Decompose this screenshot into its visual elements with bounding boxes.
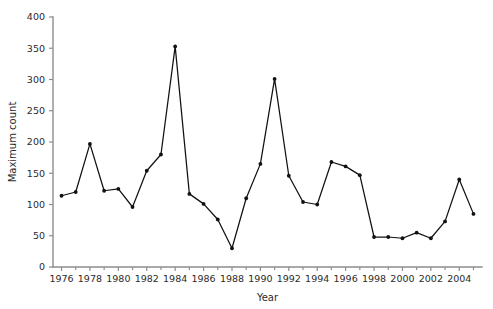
data-point [202, 202, 206, 206]
data-point [358, 173, 362, 177]
x-tick-label: 2004 [447, 273, 471, 284]
line-chart: 050100150200250300350400 197619781980198… [0, 0, 493, 309]
data-point [273, 77, 277, 81]
data-point [187, 192, 191, 196]
data-point [131, 205, 135, 209]
data-point [386, 235, 390, 239]
data-point [244, 196, 248, 200]
y-tick-label: 150 [27, 168, 45, 179]
y-tick-label: 0 [39, 261, 45, 272]
y-axis-ticks: 050100150200250300350400 [27, 11, 53, 272]
data-point [216, 218, 220, 222]
data-point [472, 212, 476, 216]
y-axis-title: Maximum count [7, 102, 18, 183]
x-tick-label: 1990 [248, 273, 272, 284]
data-point [457, 178, 461, 182]
data-point [145, 169, 149, 173]
data-point [429, 236, 433, 240]
y-tick-label: 100 [27, 199, 45, 210]
y-tick-label: 400 [27, 11, 45, 22]
x-tick-label: 1976 [49, 273, 73, 284]
x-tick-label: 2000 [390, 273, 414, 284]
y-tick-label: 300 [27, 74, 45, 85]
data-point [259, 162, 263, 166]
x-axis-title: Year [256, 292, 279, 303]
x-tick-label: 1996 [334, 273, 358, 284]
data-point [344, 164, 348, 168]
data-point [173, 44, 177, 48]
x-tick-label: 2002 [419, 273, 443, 284]
y-tick-label: 350 [27, 43, 45, 54]
data-point [116, 187, 120, 191]
x-tick-label: 1980 [106, 273, 130, 284]
chart-figure: 050100150200250300350400 197619781980198… [0, 0, 493, 309]
x-axis-ticks: 1976197819801982198419861988199019921994… [49, 267, 473, 284]
x-tick-label: 1994 [305, 273, 329, 284]
data-point [159, 153, 163, 157]
y-tick-label: 250 [27, 105, 45, 116]
x-tick-label: 1988 [220, 273, 244, 284]
x-tick-label: 1998 [362, 273, 386, 284]
data-point [415, 231, 419, 235]
data-point [74, 190, 78, 194]
data-point [60, 194, 64, 198]
data-point [330, 160, 334, 164]
y-tick-label: 50 [33, 230, 45, 241]
x-tick-label: 1992 [277, 273, 301, 284]
data-series-markers [60, 44, 476, 250]
data-point [102, 189, 106, 193]
data-point [287, 174, 291, 178]
data-point [401, 236, 405, 240]
x-tick-label: 1986 [191, 273, 215, 284]
y-tick-label: 200 [27, 136, 45, 147]
data-point [88, 142, 92, 146]
x-tick-label: 1982 [135, 273, 159, 284]
data-series-line [62, 46, 474, 248]
data-point [315, 203, 319, 207]
data-point [443, 219, 447, 223]
data-point [230, 246, 234, 250]
x-tick-label: 1978 [78, 273, 102, 284]
data-point [301, 200, 305, 204]
x-tick-label: 1984 [163, 273, 187, 284]
data-point [372, 235, 376, 239]
